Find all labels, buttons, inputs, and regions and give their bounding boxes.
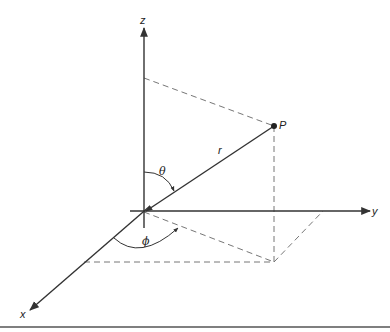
- radius-label: r: [218, 144, 223, 156]
- x-axis-label: x: [19, 308, 26, 320]
- theta-label: θ: [159, 165, 166, 178]
- z-axis-label: z: [139, 14, 146, 26]
- point-p-label: P: [279, 119, 287, 131]
- spherical-coordinates-figure: z y x P r θ ϕ: [0, 0, 390, 332]
- y-axis-label: y: [371, 205, 379, 217]
- x-axis: [30, 206, 150, 310]
- point-p-dot: [271, 123, 277, 129]
- phi-label: ϕ: [142, 235, 150, 248]
- projection-lines: [84, 78, 323, 262]
